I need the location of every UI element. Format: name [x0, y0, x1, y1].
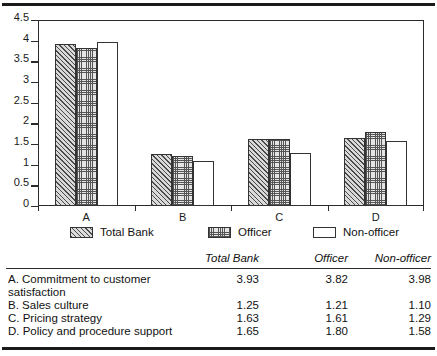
- y-axis-tick-mark: [31, 41, 38, 42]
- bar: [269, 139, 290, 206]
- y-axis-tick-mark: [31, 185, 38, 186]
- y-axis-tick-label: 1.5: [14, 136, 29, 147]
- bar: [290, 153, 311, 206]
- legend-label: Total Bank: [100, 226, 154, 238]
- legend-item-non-officer[interactable]: Non-officer: [313, 226, 399, 238]
- top-rule: [2, 3, 435, 6]
- bar: [172, 156, 193, 206]
- table-header-row: Total BankOfficerNon-officer: [6, 252, 431, 267]
- y-axis-tick-mark: [31, 206, 38, 207]
- table-cell-value: 1.25: [215, 299, 259, 312]
- x-axis-label-d: D: [372, 211, 380, 223]
- table-cell-value: 3.93: [215, 273, 259, 286]
- table-cell-value: 1.63: [215, 312, 259, 325]
- table-cell-value: 1.61: [304, 312, 348, 325]
- table-row-label: C. Pricing strategy: [8, 312, 223, 325]
- chart-legend: Total BankOfficerNon-officer: [0, 226, 437, 246]
- table-header-rule: [6, 268, 431, 269]
- bars-layer: [38, 20, 424, 206]
- table-cell-value: 3.82: [304, 273, 348, 286]
- table-row: D. Policy and procedure support1.651.801…: [6, 325, 431, 338]
- y-axis-tick-label: 3: [23, 74, 29, 85]
- bar: [365, 132, 386, 206]
- legend-item-total-bank[interactable]: Total Bank: [70, 226, 154, 238]
- y-axis-tick-mark: [31, 103, 38, 104]
- table-column-header: Total Bank: [169, 252, 259, 265]
- y-axis-tick-mark: [31, 144, 38, 145]
- x-axis-label-a: A: [83, 211, 90, 223]
- data-table: Total BankOfficerNon-officer A. Commitme…: [6, 252, 431, 267]
- y-axis-tick-label: 3.5: [14, 53, 29, 64]
- y-axis-tick-mark: [31, 61, 38, 62]
- table-cell-value: 1.21: [304, 299, 348, 312]
- table-cell-value: 1.58: [387, 325, 431, 338]
- bar: [248, 139, 269, 206]
- table-cell-value: 1.65: [215, 325, 259, 338]
- table-row-label: B. Sales culture: [8, 299, 223, 312]
- bar: [344, 138, 365, 206]
- table-cell-value: 3.98: [387, 273, 431, 286]
- table-row: A. Commitment to customer satisfaction3.…: [6, 273, 431, 299]
- table-body: A. Commitment to customer satisfaction3.…: [6, 273, 431, 338]
- y-axis-tick-label: 1: [23, 157, 29, 168]
- bar: [386, 141, 407, 206]
- table-cell-value: 1.80: [304, 325, 348, 338]
- bar-chart: 00.511.522.533.544.5 ABCD: [0, 12, 437, 222]
- y-axis-tick-label: 4.5: [14, 12, 29, 23]
- legend-label: Officer: [238, 226, 272, 238]
- y-axis-tick-label: 2.5: [14, 95, 29, 106]
- table-cell-value: 1.10: [387, 299, 431, 312]
- bar: [97, 42, 118, 207]
- bottom-rule: [2, 347, 435, 350]
- y-axis-tick-mark: [31, 123, 38, 124]
- y-axis: 00.511.522.533.544.5: [0, 20, 38, 206]
- y-axis-tick-label: 0: [23, 198, 29, 209]
- legend-swatch-icon: [70, 227, 93, 238]
- table-row: C. Pricing strategy1.631.611.29: [6, 312, 431, 325]
- table-column-header: Officer: [258, 252, 348, 265]
- bar: [193, 161, 214, 206]
- table-cell-value: 1.29: [387, 312, 431, 325]
- table-row-label: D. Policy and procedure support: [8, 325, 223, 338]
- y-axis-tick-label: 2: [23, 115, 29, 126]
- x-axis-label-b: B: [179, 211, 186, 223]
- y-axis-tick-mark: [31, 165, 38, 166]
- legend-label: Non-officer: [343, 226, 399, 238]
- y-axis-tick-label: 0.5: [14, 177, 29, 188]
- bar: [151, 154, 172, 206]
- legend-swatch-icon: [208, 227, 231, 238]
- y-axis-tick-mark: [31, 20, 38, 21]
- x-axis-label-c: C: [275, 211, 283, 223]
- bar: [76, 48, 97, 206]
- bar: [55, 44, 76, 206]
- table-row: B. Sales culture1.251.211.10: [6, 299, 431, 312]
- table-row-label: A. Commitment to customer satisfaction: [8, 273, 223, 299]
- legend-swatch-icon: [313, 227, 336, 238]
- legend-item-officer[interactable]: Officer: [208, 226, 272, 238]
- y-axis-tick-label: 4: [23, 33, 29, 44]
- table-column-header: Non-officer: [341, 252, 431, 265]
- y-axis-tick-mark: [31, 82, 38, 83]
